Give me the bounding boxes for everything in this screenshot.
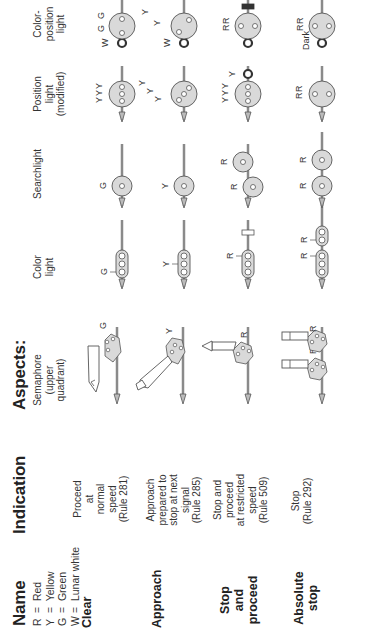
- svg-text:Dark: Dark: [301, 30, 311, 50]
- svg-text:W: W: [100, 38, 110, 47]
- color-position-light-stop-and-proceed-icon: R R: [221, 0, 261, 47]
- svg-text:G: G: [99, 268, 109, 275]
- color-position-light-clear-icon: W G G: [96, 0, 135, 47]
- svg-text:R: R: [239, 331, 249, 338]
- svg-text:G: G: [98, 322, 108, 329]
- searchlight-approach-icon: Y: [160, 144, 194, 208]
- svg-text:R: R: [308, 325, 318, 332]
- svg-text:Y: Y: [153, 96, 163, 102]
- svg-text:R: R: [221, 17, 231, 24]
- semaphore-approach-icon: Y: [136, 327, 186, 404]
- svg-text:G: G: [96, 25, 106, 32]
- svg-text:R: R: [298, 156, 308, 163]
- svg-text:R: R: [219, 158, 229, 165]
- position-light-stop-and-proceed-icon: Y Y Y Y: [220, 66, 261, 122]
- searchlight-stop-and-proceed-icon: R R: [219, 144, 263, 208]
- svg-text:R: R: [294, 85, 304, 92]
- color-light-approach-icon: Y: [161, 220, 190, 289]
- svg-text:R: R: [295, 24, 305, 31]
- color-light-clear-icon: G: [99, 220, 128, 289]
- svg-text:Y: Y: [160, 183, 170, 189]
- semaphore-clear-icon: G: [88, 322, 121, 404]
- svg-text:Y: Y: [220, 83, 230, 89]
- svg-text:Y: Y: [161, 261, 171, 267]
- svg-text:R: R: [295, 17, 305, 24]
- svg-text:Y: Y: [94, 83, 104, 89]
- svg-text:Y: Y: [140, 9, 150, 15]
- color-light-stop-and-proceed-icon: R: [225, 220, 254, 289]
- position-light-absolute-stop-icon: R R: [294, 66, 335, 122]
- svg-text:Y: Y: [94, 97, 104, 103]
- searchlight-absolute-stop-icon: R R: [298, 132, 332, 208]
- searchlight-clear-icon: G: [98, 144, 132, 208]
- svg-text:Y: Y: [220, 90, 230, 96]
- svg-text:W: W: [162, 38, 172, 47]
- color-light-absolute-stop-icon: R R: [299, 202, 328, 289]
- svg-text:Y: Y: [227, 71, 237, 77]
- svg-text:R: R: [298, 182, 308, 189]
- svg-text:R: R: [229, 183, 239, 190]
- svg-text:R: R: [225, 252, 235, 259]
- svg-text:R: R: [299, 236, 309, 243]
- svg-text:Y: Y: [94, 90, 104, 96]
- color-position-light-approach-icon: W Y Y: [140, 0, 197, 47]
- semaphore-stop-and-proceed-icon: R: [202, 327, 253, 404]
- svg-text:G: G: [98, 182, 108, 189]
- position-light-clear-icon: Y Y Y: [94, 66, 135, 122]
- color-position-light-absolute-stop-icon: Dark R R: [295, 0, 335, 50]
- svg-text:R: R: [221, 24, 231, 31]
- svg-text:Y: Y: [152, 20, 162, 26]
- svg-text:Y: Y: [137, 80, 147, 86]
- position-light-approach-icon: Y Y Y: [137, 66, 197, 122]
- svg-text:G: G: [96, 12, 106, 19]
- svg-text:Y: Y: [220, 97, 230, 103]
- svg-text:Y: Y: [145, 88, 155, 94]
- svg-text:R: R: [299, 252, 309, 259]
- signal-drawings: G Y R: [0, 0, 375, 632]
- svg-text:R: R: [294, 92, 304, 99]
- semaphore-absolute-stop-icon: R R: [282, 325, 327, 404]
- signal-aspects-diagram: Name Indication Aspects: R= Red Y= Yello…: [0, 0, 375, 632]
- svg-text:Y: Y: [164, 328, 174, 334]
